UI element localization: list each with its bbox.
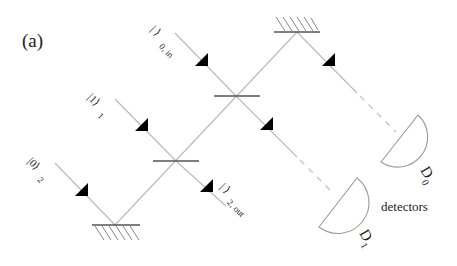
beam-output-2 [176, 161, 226, 206]
ket-input-1: |1⟩ 1 [81, 91, 111, 121]
mirror-top [274, 17, 320, 32]
svg-text:| ⟩: | ⟩ [149, 23, 164, 38]
svg-text:0, in: 0, in [157, 41, 176, 60]
arrow-icon [260, 117, 273, 130]
interferometer-diagram: (a) [0, 0, 457, 266]
svg-text:|0⟩: |0⟩ [26, 155, 43, 172]
svg-text:2: 2 [36, 175, 46, 185]
detector-label-d0: D 0 [414, 164, 439, 188]
detector-label-d1: D 1 [353, 227, 378, 251]
mirror-bottom [92, 225, 140, 240]
panel-label: (a) [22, 30, 43, 52]
detector-d0 [381, 115, 428, 167]
svg-text:|1⟩: |1⟩ [86, 91, 103, 108]
svg-text:1: 1 [358, 241, 370, 251]
detectors-caption: detectors [381, 199, 428, 214]
direction-arrows [75, 53, 335, 196]
ket-input-2: |0⟩ 2 [21, 155, 51, 185]
dashed-path-d1 [300, 160, 334, 194]
ket-input-0: | ⟩ 0, in [144, 23, 181, 60]
dashed-path-d0 [360, 96, 396, 132]
arrow-icon [135, 118, 148, 131]
arrow-icon [200, 179, 213, 192]
svg-text:0: 0 [419, 178, 431, 188]
svg-text:1: 1 [96, 111, 106, 121]
svg-text:2, out: 2, out [225, 197, 247, 219]
svg-text:| ⟩: | ⟩ [218, 180, 233, 195]
